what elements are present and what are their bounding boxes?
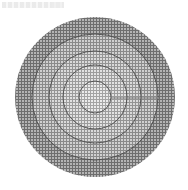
ring-5 — [79, 81, 111, 113]
concentric-rings-figure — [0, 0, 188, 190]
